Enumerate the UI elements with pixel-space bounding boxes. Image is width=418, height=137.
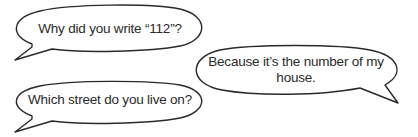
speech-bubble-3-text: Which street do you live on?: [20, 92, 200, 108]
dialogue-illustration: Why did you write “112”? Because it’s th…: [0, 0, 418, 137]
speech-bubble-2-text: Because it’s the number of my house.: [200, 54, 392, 86]
speech-bubble-1-text: Why did you write “112”?: [20, 21, 200, 37]
